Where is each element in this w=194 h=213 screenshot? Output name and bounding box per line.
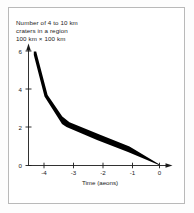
x-tick-label-minus-2: -2 [96, 169, 110, 176]
x-axis-title-text: Time (aeons) [82, 179, 118, 186]
x-tick-label-0: 0 [153, 169, 167, 176]
y-tick-label-2: 2 [10, 124, 22, 131]
cratering-uncertainty-band [34, 52, 160, 166]
x-tick-label-minus-3: -3 [67, 169, 81, 176]
y-tick-label-0: 0 [10, 162, 22, 169]
figure-canvas: Number of 4 to 10 km craters in a region… [0, 0, 194, 213]
y-tick-label-4: 4 [10, 86, 22, 93]
y-axis-arrow-icon [26, 44, 31, 51]
x-tick-label-minus-1: -1 [126, 169, 140, 176]
y-tick-label-6: 6 [10, 48, 22, 55]
x-axis-title: Time (aeons) [0, 179, 194, 186]
x-tick-label-minus-4: -4 [37, 169, 51, 176]
x-axis-arrow-icon [166, 163, 173, 168]
